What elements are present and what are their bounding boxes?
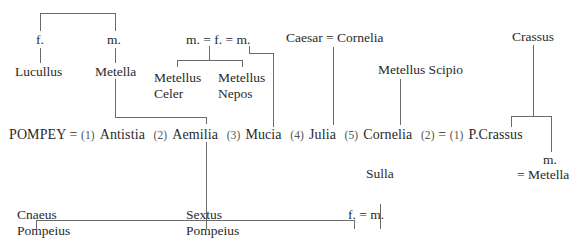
cornelia-second-marriage-number: (2) xyxy=(421,129,435,141)
pcrassus-label: P.Crassus xyxy=(469,127,523,142)
wife-number-1: (1) xyxy=(81,129,95,141)
wife-aemilia: Aemilia xyxy=(172,127,218,142)
equals-sign-2: = xyxy=(438,127,446,142)
sextus-pompeius-line2: Pompeius xyxy=(186,223,239,239)
cnaeus-pompeius-line2: Pompeius xyxy=(17,223,70,239)
sextus-pompeius-line1: Sextus xyxy=(186,207,222,223)
wife-julia: Julia xyxy=(309,127,336,142)
pompey-marriages-row: POMPEY = (1)Antistia (2)Aemilia (3)Mucia… xyxy=(9,126,523,144)
wife-antistia: Antistia xyxy=(100,127,145,142)
sulla-label: Sulla xyxy=(366,166,394,182)
mother-label: m. xyxy=(107,32,121,48)
metellus-celer-line1: Metellus xyxy=(154,70,201,86)
crassus-label: Crassus xyxy=(512,29,554,45)
equals-sign: = xyxy=(69,127,77,142)
wife-number-4: (4) xyxy=(290,129,304,141)
wife-number-2: (2) xyxy=(154,129,168,141)
crassus-daughter-spouse-label: = Metella xyxy=(517,167,569,183)
metellus-nepos-line1: Metellus xyxy=(218,70,265,86)
pompey-label: POMPEY xyxy=(9,127,66,142)
father-label: f. xyxy=(36,32,44,48)
cnaeus-pompeius-line1: Cnaeus xyxy=(17,207,57,223)
pcrassus-marriage-number: (1) xyxy=(450,129,464,141)
wife-mucia: Mucia xyxy=(245,127,281,142)
metellus-nepos-line2: Nepos xyxy=(218,86,253,102)
wife-number-3: (3) xyxy=(227,129,241,141)
metellus-scipio-label: Metellus Scipio xyxy=(378,62,463,78)
mother-to-mucia-line xyxy=(249,46,273,127)
daughter-couple-label: f. = m. xyxy=(348,207,384,223)
lucullus-label: Lucullus xyxy=(15,64,62,80)
crassus-daughter-label: m. xyxy=(543,152,557,168)
wife-number-5: (5) xyxy=(345,129,359,141)
metelli-children-bracket xyxy=(177,60,242,67)
metellus-celer-line2: Celer xyxy=(154,86,183,102)
caesar-cornelia-label: Caesar = Cornelia xyxy=(286,30,384,46)
metelli-couple-label: m. = f. = m. xyxy=(186,32,250,48)
parents-bracket-line xyxy=(40,13,115,31)
wife-cornelia: Cornelia xyxy=(363,127,412,142)
metella-label: Metella xyxy=(95,64,136,80)
